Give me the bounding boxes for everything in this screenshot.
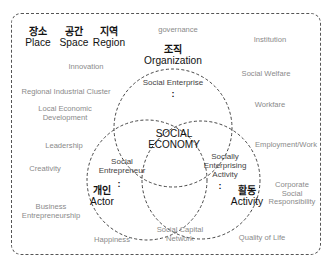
social-economy-center: SOCIAL ECONOMY [144, 128, 204, 150]
keyword-employment: Employment/Work [246, 141, 326, 150]
social-entrepreneur-line2: Entrepreneur [92, 166, 152, 175]
space-ko: 공간 [57, 27, 91, 38]
keyword-social-capital-network: Social Capital Network [150, 226, 210, 243]
keyword-social-welfare: Social Welfare [226, 70, 306, 79]
organization-ko: 조직 [133, 45, 213, 56]
social-enterprise-label: Social Enterprise [128, 78, 218, 87]
csr-line3: Responsibility [262, 198, 322, 207]
keyword-local-economic-development: Local Economic Development [30, 105, 100, 122]
keyword-innovation: Innovation [56, 63, 116, 72]
sea-line2: Enterprising [195, 161, 255, 170]
keyword-institution: Institution [240, 36, 300, 45]
region-ko: 지역 [90, 27, 128, 38]
dimension-region: 지역 Region [90, 27, 128, 48]
social-capital-line2: Network [150, 235, 210, 244]
socially-enterprising-activity-label: Socially Enterprising Activity [195, 152, 255, 180]
social-entrepreneur-line1: Social [92, 157, 152, 166]
dimension-space: 공간 Space [57, 27, 91, 48]
keyword-creativity: Creativity [20, 165, 70, 174]
space-en: Space [57, 38, 91, 49]
region-en: Region [90, 38, 128, 49]
keyword-workfare: Workfare [240, 101, 300, 110]
actor-ko: 개인 [82, 186, 122, 197]
place-en: Place [24, 38, 52, 49]
organization-colon: : [163, 90, 183, 99]
center-line1: SOCIAL [144, 128, 204, 139]
sea-line3: Activity [195, 170, 255, 179]
sea-line1: Socially [195, 152, 255, 161]
business-line2: Entrepreneurship [18, 212, 84, 221]
keyword-business-entrepreneurship: Business Entrepreneurship [18, 203, 84, 220]
keyword-quality-of-life: Quality of Life [230, 234, 294, 243]
dimension-place: 장소 Place [24, 27, 52, 48]
organization-label: 조직 Organization [133, 45, 213, 66]
actor-label: 개인 Actor [82, 186, 122, 207]
center-line2: ECONOMY [144, 139, 204, 150]
keyword-happiness: Happiness [84, 236, 140, 245]
place-ko: 장소 [24, 27, 52, 38]
local-econ-line2: Development [30, 114, 100, 123]
actor-en: Actor [82, 197, 122, 208]
organization-en: Organization [133, 56, 213, 67]
keyword-csr: Corporate Social Responsibility [262, 181, 322, 207]
keyword-regional-cluster: Regional Industrial Cluster [14, 88, 118, 97]
social-entrepreneur-label: Social Entrepreneur [92, 157, 152, 175]
keyword-governance: governance [148, 26, 208, 35]
keyword-leadership: Leadership [34, 142, 94, 151]
